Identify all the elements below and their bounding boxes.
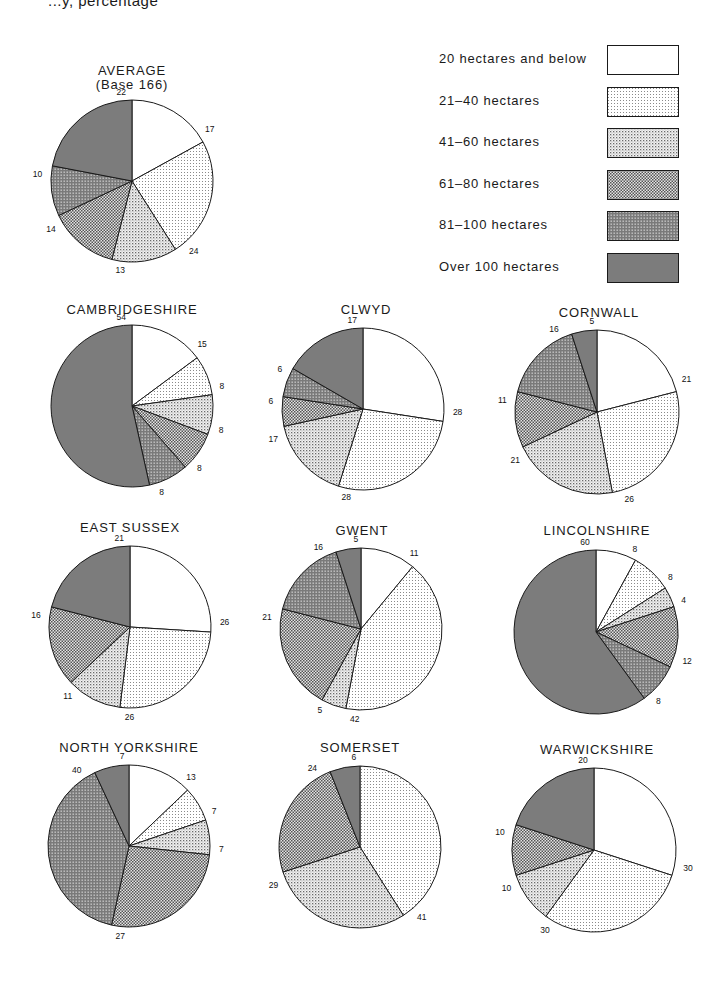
slice-value-label: 21 <box>510 455 520 465</box>
slice-value-label: 24 <box>189 246 199 256</box>
slice-value-label: 5 <box>590 316 595 326</box>
pie-chart: 4129246 <box>269 752 441 928</box>
slice-value-label: 26 <box>220 617 230 627</box>
slice-value-label: 27 <box>115 931 125 941</box>
slice-value-label: 11 <box>410 548 419 558</box>
slice-value-label: 60 <box>580 537 590 547</box>
slice-value-label: 17 <box>269 434 279 444</box>
slice-value-label: 21 <box>114 533 124 543</box>
slice-value-label: 26 <box>125 712 135 722</box>
slice-value-label: 24 <box>308 763 318 773</box>
pie-slice-le20 <box>130 546 211 632</box>
slice-value-label: 21 <box>682 374 692 384</box>
slice-value-label: 8 <box>219 425 224 435</box>
slice-value-label: 20 <box>578 755 588 765</box>
slice-value-label: 54 <box>116 312 126 322</box>
slice-value-label: 7 <box>120 751 125 761</box>
slice-value-label: 5 <box>354 534 359 544</box>
slice-value-label: 5 <box>317 705 322 715</box>
slice-value-label: 21 <box>262 612 272 622</box>
slice-value-label: 11 <box>498 395 507 405</box>
pie-slice-le20 <box>363 328 444 421</box>
pie-chart: 2828176617 <box>269 315 463 503</box>
pie-charts-canvas: 1724131410221588885428281766172126211116… <box>0 0 711 983</box>
slice-value-label: 7 <box>212 806 217 816</box>
slice-value-label: 14 <box>46 224 56 234</box>
slice-value-label: 10 <box>495 827 505 837</box>
slice-value-label: 8 <box>656 696 661 706</box>
slice-value-label: 22 <box>116 87 126 97</box>
slice-value-label: 8 <box>220 381 225 391</box>
pie-chart: 15888854 <box>51 312 225 497</box>
slice-value-label: 6 <box>269 396 274 406</box>
slice-value-label: 41 <box>417 912 427 922</box>
slice-value-label: 17 <box>347 315 357 325</box>
slice-value-label: 16 <box>314 542 324 552</box>
slice-value-label: 16 <box>549 324 559 334</box>
slice-value-label: 6 <box>352 752 357 762</box>
pie-chart: 2626111621 <box>31 533 229 722</box>
slice-value-label: 28 <box>341 492 351 502</box>
pie-chart: 1142521165 <box>262 534 442 724</box>
slice-value-label: 8 <box>159 487 164 497</box>
slice-value-label: 7 <box>219 844 224 854</box>
slice-value-label: 30 <box>683 863 693 873</box>
slice-value-label: 4 <box>681 595 686 605</box>
slice-value-label: 8 <box>197 463 202 473</box>
slice-value-label: 42 <box>350 714 360 724</box>
slice-value-label: 29 <box>269 880 279 890</box>
pie-chart: 21262111165 <box>498 316 692 504</box>
slice-value-label: 13 <box>186 772 196 782</box>
slice-value-label: 8 <box>633 544 638 554</box>
slice-value-label: 12 <box>682 656 692 666</box>
slice-value-label: 17 <box>205 124 215 134</box>
pie-slice-h21_40 <box>120 627 211 708</box>
slice-value-label: 30 <box>540 925 550 935</box>
slice-value-label: 16 <box>31 610 41 620</box>
pie-chart: 137727407 <box>48 751 224 940</box>
slice-value-label: 40 <box>72 765 82 775</box>
slice-value-label: 15 <box>197 339 207 349</box>
slice-value-label: 10 <box>502 883 512 893</box>
slice-value-label: 13 <box>115 265 125 275</box>
slice-value-label: 26 <box>625 494 635 504</box>
pie-chart: 3030101020 <box>495 755 693 935</box>
pie-chart: 172413141022 <box>33 87 215 276</box>
slice-value-label: 10 <box>33 169 43 179</box>
slice-value-label: 8 <box>668 572 673 582</box>
slice-value-label: 11 <box>63 691 72 701</box>
slice-value-label: 28 <box>453 407 463 417</box>
slice-value-label: 6 <box>277 364 282 374</box>
pie-chart: 88412860 <box>514 537 692 714</box>
